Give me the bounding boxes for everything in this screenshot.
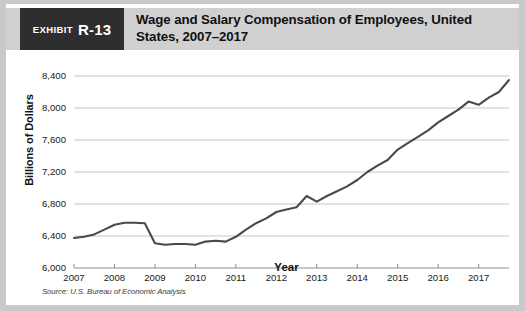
exhibit-tag-word: Exhibit — [33, 24, 73, 35]
data-line-series — [74, 80, 509, 245]
y-tick-label: 7,600 — [20, 134, 66, 145]
x-tick-label: 2015 — [375, 272, 421, 283]
chart-region: Billions of Dollars 6,0006,4006,8007,200… — [6, 50, 519, 305]
x-tick-label: 2007 — [51, 272, 97, 283]
y-tick-label: 6,800 — [20, 198, 66, 209]
exhibit-tag-badge: Exhibit R-13 — [20, 8, 124, 50]
figure-inner-panel: Exhibit R-13 Wage and Salary Compensatio… — [6, 4, 519, 305]
gridlines-group — [74, 76, 509, 236]
x-tick-label: 2011 — [213, 272, 259, 283]
exhibit-title: Wage and Salary Compensation of Employee… — [136, 11, 506, 45]
source-note: Source: U.S. Bureau of Economic Analysis — [42, 287, 186, 296]
y-tick-label: 7,200 — [20, 166, 66, 177]
exhibit-figure: Exhibit R-13 Wage and Salary Compensatio… — [0, 0, 525, 311]
x-tick-label: 2009 — [132, 272, 178, 283]
x-tick-label: 2013 — [294, 272, 340, 283]
y-tick-label: 8,400 — [20, 70, 66, 81]
y-tick-label: 6,400 — [20, 230, 66, 241]
exhibit-header-band: Exhibit R-13 Wage and Salary Compensatio… — [6, 8, 519, 50]
x-tick-label: 2017 — [456, 272, 502, 283]
x-tick-label: 2012 — [253, 272, 299, 283]
x-axis-title: Year — [68, 261, 505, 273]
exhibit-tag-number: R-13 — [78, 21, 111, 38]
x-tick-label: 2016 — [415, 272, 461, 283]
y-tick-label: 8,000 — [20, 102, 66, 113]
x-tick-label: 2008 — [91, 272, 137, 283]
x-tick-label: 2014 — [334, 272, 380, 283]
x-tick-label: 2010 — [172, 272, 218, 283]
